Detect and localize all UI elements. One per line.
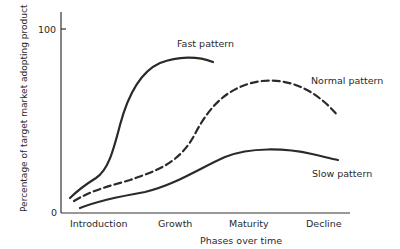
x-category-decline: Decline <box>306 218 342 229</box>
x-category-growth: Growth <box>158 218 192 229</box>
x-category-maturity: Maturity <box>229 218 269 229</box>
x-category-introduction: Introduction <box>70 218 128 229</box>
fast-pattern-label: Fast pattern <box>177 38 234 49</box>
y-tick-label-100: 100 <box>38 24 56 35</box>
normal-pattern-label: Normal pattern <box>311 75 383 86</box>
slow-pattern-label: Slow pattern <box>312 168 372 179</box>
normal-pattern-curve <box>74 81 338 201</box>
y-axis-title: Percentage of target market adopting pro… <box>19 4 29 212</box>
adoption-chart: 100 0 Percentage of target market adopti… <box>0 0 400 249</box>
slow-pattern-curve <box>80 149 338 208</box>
x-axis-title: Phases over time <box>200 235 282 246</box>
y-tick-label-0: 0 <box>51 207 57 218</box>
